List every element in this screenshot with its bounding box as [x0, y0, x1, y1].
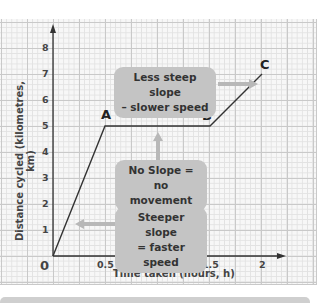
y-tick-1: 1 [42, 224, 49, 235]
y-tick-3: 3 [42, 172, 49, 183]
faster-arrow-icon [75, 219, 84, 229]
y-tick-4: 4 [42, 146, 49, 157]
callout-faster-speed: Steeper slope = faster speed [115, 207, 207, 273]
no-slope-arrow-icon [153, 132, 163, 141]
point-label-a: A [101, 107, 111, 122]
callout-no-movement: No Slope = no movement [115, 160, 207, 211]
y-axis-arrow-icon [50, 24, 56, 33]
callout-slower-speed: Less steep slope – slower speed [114, 67, 216, 118]
slower-arrow-icon [249, 79, 258, 89]
y-tick-6: 6 [42, 94, 49, 105]
y-axis-label: Distance cycled (kilometres, km) [14, 76, 36, 246]
y-tick-2: 2 [42, 198, 49, 209]
x-axis-arrow-icon [277, 253, 286, 259]
x-tick-0-5: 0.5 [97, 259, 114, 270]
point-label-c: C [260, 57, 270, 72]
y-tick-5: 5 [42, 120, 49, 131]
x-tick-2: 2 [259, 259, 266, 270]
origin-label: 0 [40, 258, 49, 273]
y-tick-7: 7 [42, 68, 49, 79]
bottom-panel-edge [0, 297, 310, 303]
y-tick-8: 8 [42, 42, 49, 53]
